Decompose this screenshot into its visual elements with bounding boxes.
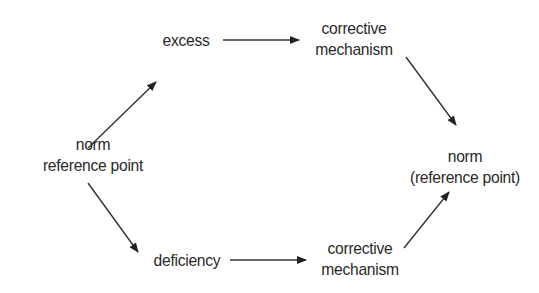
arrow-corrective-to-norm-right bbox=[406, 57, 456, 125]
node-norm-right-line1: norm bbox=[401, 146, 530, 167]
node-deficiency: deficiency bbox=[147, 250, 228, 271]
node-corrective-bottom-line1: corrective bbox=[308, 238, 411, 259]
node-corrective-top: corrective mechanism bbox=[302, 18, 405, 60]
node-norm-left-line2: reference point bbox=[24, 155, 162, 176]
node-excess-label: excess bbox=[153, 30, 219, 51]
node-corrective-bottom: corrective mechanism bbox=[308, 238, 411, 280]
arrow-norm-to-deficiency bbox=[88, 183, 138, 252]
node-norm-left-line1: norm bbox=[24, 134, 162, 155]
node-norm-left: norm reference point bbox=[24, 134, 162, 176]
node-corrective-top-line1: corrective bbox=[302, 18, 405, 39]
node-norm-right-line2: (reference point) bbox=[401, 167, 530, 188]
node-excess: excess bbox=[153, 30, 219, 51]
node-deficiency-label: deficiency bbox=[147, 250, 228, 271]
node-norm-right: norm (reference point) bbox=[401, 146, 530, 188]
node-corrective-top-line2: mechanism bbox=[302, 39, 405, 60]
node-corrective-bottom-line2: mechanism bbox=[308, 259, 411, 280]
norm-correction-diagram: norm reference point excess corrective m… bbox=[0, 0, 539, 293]
